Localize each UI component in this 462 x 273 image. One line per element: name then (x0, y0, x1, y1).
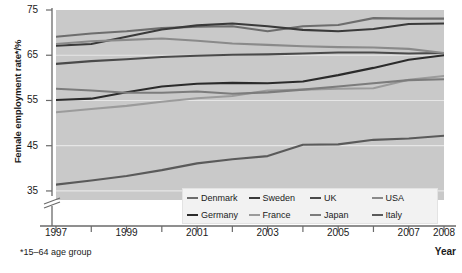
legend-item-germany[interactable]: Germany (187, 207, 249, 224)
legend-swatch-icon (187, 214, 198, 217)
y-tick-75: 75 (4, 5, 38, 15)
x-tick-2003: 2003 (248, 228, 288, 238)
legend-swatch-icon (249, 197, 260, 200)
x-tick-2005: 2005 (318, 228, 358, 238)
legend-label: Japan (324, 211, 349, 220)
legend-label: France (263, 211, 291, 220)
legend-swatch-icon (372, 214, 383, 217)
series-line-sweden (56, 24, 444, 46)
x-axis-tick-labels: 1997199920012003200520072008 (0, 228, 462, 244)
y-tick-45: 45 (4, 141, 38, 151)
y-tick-55: 55 (4, 95, 38, 105)
legend-label: Italy (386, 211, 403, 220)
legend-item-france[interactable]: France (249, 207, 311, 224)
legend-item-usa[interactable]: USA (372, 190, 434, 207)
y-tick-65: 65 (4, 50, 38, 60)
chart-figure: Female employment rate*/% 7565554535 199… (0, 0, 462, 273)
legend-label: Sweden (263, 194, 296, 203)
legend: DenmarkSwedenUKUSAGermanyFranceJapanItal… (182, 188, 438, 224)
y-tick-35: 35 (4, 186, 38, 196)
legend-swatch-icon (187, 197, 198, 200)
x-axis-title: Year (435, 246, 456, 257)
legend-item-denmark[interactable]: Denmark (187, 190, 249, 207)
legend-item-italy[interactable]: Italy (372, 207, 434, 224)
x-tick-2007: 2007 (389, 228, 429, 238)
legend-swatch-icon (249, 214, 260, 217)
x-tick-1997: 1997 (36, 228, 76, 238)
x-tick-1999: 1999 (107, 228, 147, 238)
plot-area (56, 10, 444, 200)
legend-swatch-icon (310, 197, 321, 200)
x-tick-2008: 2008 (424, 228, 462, 238)
series-line-italy (56, 136, 444, 185)
series-line-uk (56, 53, 444, 64)
legend-item-uk[interactable]: UK (310, 190, 372, 207)
legend-item-sweden[interactable]: Sweden (249, 190, 311, 207)
legend-label: Denmark (201, 194, 238, 203)
series-line-japan (56, 79, 444, 93)
legend-item-japan[interactable]: Japan (310, 207, 372, 224)
legend-label: UK (324, 194, 337, 203)
footnote: *15–64 age group (20, 247, 92, 257)
series-line-usa (56, 39, 444, 53)
plot-lines (56, 10, 444, 200)
legend-label: USA (386, 194, 405, 203)
legend-swatch-icon (310, 214, 321, 217)
x-tick-2001: 2001 (177, 228, 217, 238)
legend-swatch-icon (372, 197, 383, 200)
legend-label: Germany (201, 211, 238, 220)
